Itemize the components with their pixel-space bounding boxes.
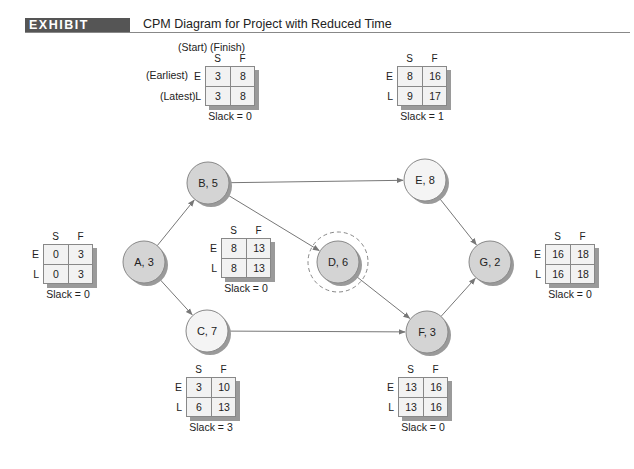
col-f: F [211,364,236,375]
earliest-start: 8 [222,239,246,258]
row-l: L [207,262,217,274]
col-f: F [422,53,447,64]
legend-earliest: (Earliest) [146,69,188,81]
latest-start: 13 [399,398,423,417]
latest-finish: 13 [212,398,236,417]
arrow-A-C [158,278,192,315]
slack-label: Slack = 0 [35,288,101,300]
col-s: S [221,225,246,236]
col-s: S [43,231,68,242]
latest-start: 3 [206,87,230,106]
row-l: L [29,268,39,280]
earliest-start: 8 [398,67,422,86]
row-e: E [383,70,393,82]
node-G: G, 2 [469,241,514,286]
node-label: F, 3 [418,326,436,338]
slack-label: Slack = 0 [537,288,603,300]
cpm-network: A, 3B, 5C, 7D, 6E, 8F, 3G, 2 [0,0,634,469]
latest-start: 0 [44,265,68,284]
latest-finish: 3 [69,265,93,284]
latest-start: 9 [398,87,422,106]
row-e: E [172,381,182,393]
col-s: S [186,364,211,375]
arrow-C-F [228,331,405,332]
row-l: L [531,268,541,280]
earliest-start: 16 [546,245,570,264]
col-f: F [570,231,595,242]
row-l: L [383,90,393,102]
col-s: S [397,53,422,64]
slack-label: Slack = 0 [390,421,456,433]
arrow-F-G [441,278,475,316]
node-A: A, 3 [123,241,168,286]
arrow-B-E [229,180,403,182]
node-C: C, 7 [186,310,231,355]
row-e: E [191,70,201,82]
slack-label: Slack = 3 [178,421,244,433]
earliest-finish: 18 [571,245,595,264]
earliest-finish: 3 [69,245,93,264]
earliest-finish: 16 [424,378,448,397]
earliest-finish: 16 [423,67,447,86]
earliest-finish: 10 [212,378,236,397]
node-D: D, 6 [308,232,368,292]
col-f: F [230,53,255,64]
earliest-finish: 13 [247,239,271,258]
row-e: E [29,248,39,260]
row-l: L [191,90,201,102]
col-s: S [205,53,230,64]
row-e: E [531,248,541,260]
node-F: F, 3 [406,311,451,356]
row-e: E [384,381,394,393]
legend-start-finish: (Start) (Finish) [178,41,245,53]
node-label: B, 5 [198,177,218,189]
col-s: S [398,364,423,375]
col-f: F [68,231,93,242]
row-l: L [172,401,182,413]
latest-finish: 13 [247,259,271,278]
slack-label: Slack = 0 [213,282,279,294]
latest-start: 16 [546,265,570,284]
col-f: F [423,364,448,375]
earliest-start: 13 [399,378,423,397]
latest-finish: 8 [231,87,255,106]
arrow-A-B [157,200,194,246]
latest-finish: 17 [423,87,447,106]
arrow-E-G [438,196,476,244]
nodes: A, 3B, 5C, 7D, 6E, 8F, 3G, 2 [123,159,514,356]
slack-label: Slack = 0 [197,110,263,122]
earliest-finish: 8 [231,67,255,86]
slack-label: Slack = 1 [389,110,455,122]
node-label: D, 6 [328,256,348,268]
earliest-start: 3 [206,67,230,86]
latest-finish: 16 [424,398,448,417]
latest-start: 6 [187,398,211,417]
node-label: E, 8 [415,174,435,186]
row-e: E [207,242,217,254]
earliest-start: 3 [187,378,211,397]
col-s: S [545,231,570,242]
earliest-start: 0 [44,245,68,264]
node-E: E, 8 [404,159,449,204]
node-label: A, 3 [134,256,154,268]
col-f: F [246,225,271,236]
row-l: L [384,401,394,413]
node-label: G, 2 [480,256,501,268]
arrow-D-F [355,275,410,318]
latest-finish: 18 [571,265,595,284]
node-label: C, 7 [197,325,217,337]
latest-start: 8 [222,259,246,278]
